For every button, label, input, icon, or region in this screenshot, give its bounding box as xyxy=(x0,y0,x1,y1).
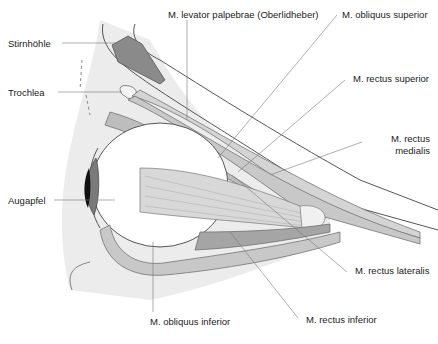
label-rectus-medialis-line2: medialis xyxy=(390,145,430,156)
label-augapfel: Augapfel xyxy=(8,195,46,206)
eye-muscle-diagram xyxy=(0,0,438,344)
label-rectus-inferior: M. rectus inferior xyxy=(306,314,377,325)
label-trochlea: Trochlea xyxy=(8,87,45,98)
label-obliquus-inferior: M. obliquus inferior xyxy=(150,316,230,327)
label-stirnhoehle: Stirnhöhle xyxy=(8,38,51,49)
label-levator-palpebrae: M. levator palpebrae (Oberlidheber) xyxy=(168,9,319,20)
label-obliquus-superior: M. obliquus superior xyxy=(342,9,428,20)
label-rectus-medialis-line1: M. rectus xyxy=(390,133,430,144)
label-rectus-superior: M. rectus superior xyxy=(353,73,429,84)
label-rectus-lateralis: M. rectus lateralis xyxy=(355,265,429,276)
